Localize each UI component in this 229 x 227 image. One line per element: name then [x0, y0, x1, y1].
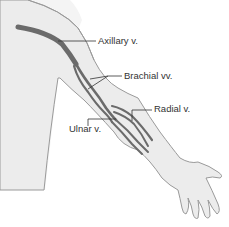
label-radial-vein: Radial v.: [154, 104, 190, 114]
label-brachial-veins: Brachial vv.: [124, 71, 172, 81]
label-ulnar-vein: Ulnar v.: [69, 124, 101, 134]
label-axillary-vein: Axillary v.: [98, 36, 138, 46]
